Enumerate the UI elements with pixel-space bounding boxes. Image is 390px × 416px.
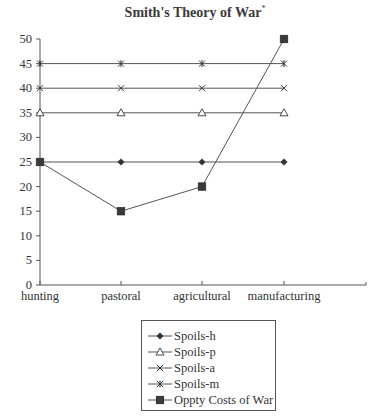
y-tick-label: 10 bbox=[20, 229, 33, 243]
y-tick-label: 25 bbox=[20, 155, 33, 169]
legend-label: Spoils-h bbox=[174, 328, 216, 344]
y-tick-label: 20 bbox=[20, 180, 33, 194]
y-tick-label: 50 bbox=[20, 32, 33, 46]
diamond-marker-icon bbox=[281, 159, 288, 166]
series-oppty-costs-of-war bbox=[36, 35, 288, 215]
square-marker-icon bbox=[156, 396, 164, 404]
x-tick-label: hunting bbox=[21, 289, 60, 303]
y-tick-label: 40 bbox=[20, 81, 33, 95]
y-tick-label: 30 bbox=[20, 130, 33, 144]
x-tick-label: agricultural bbox=[173, 289, 231, 303]
legend-item: Oppty Costs of War bbox=[142, 392, 275, 408]
diamond-marker-icon bbox=[199, 159, 206, 166]
series-spoils-m bbox=[37, 60, 287, 67]
legend-label: Spoils-a bbox=[174, 360, 215, 376]
legend: Spoils-hSpoils-pSpoils-aSpoils-mOppty Co… bbox=[141, 320, 276, 411]
legend-item: Spoils-p bbox=[142, 344, 275, 360]
diamond-marker-icon bbox=[118, 159, 125, 166]
diamond-marker-icon bbox=[157, 333, 164, 340]
square-marker-icon bbox=[117, 207, 125, 215]
legend-item: Spoils-h bbox=[142, 328, 275, 344]
line-chart: 05101520253035404550huntingpastoralagric… bbox=[0, 0, 390, 316]
series-line bbox=[40, 39, 284, 211]
legend-label: Oppty Costs of War bbox=[174, 392, 273, 408]
y-tick-label: 35 bbox=[20, 106, 33, 120]
legend-label: Spoils-m bbox=[174, 376, 219, 392]
y-tick-label: 15 bbox=[20, 204, 33, 218]
legend-item: Spoils-m bbox=[142, 376, 275, 392]
x-tick-label: manufacturing bbox=[248, 289, 322, 303]
series-spoils-a bbox=[37, 85, 287, 91]
square-marker-icon bbox=[280, 35, 288, 43]
y-tick-label: 5 bbox=[26, 253, 32, 267]
square-marker-icon bbox=[36, 158, 44, 166]
legend-item: Spoils-a bbox=[142, 360, 275, 376]
x-tick-label: pastoral bbox=[101, 289, 141, 303]
square-marker-icon bbox=[198, 183, 206, 191]
y-tick-label: 45 bbox=[20, 57, 33, 71]
legend-label: Spoils-p bbox=[174, 344, 216, 360]
series-spoils-h bbox=[37, 159, 288, 166]
series-spoils-p bbox=[36, 109, 288, 116]
